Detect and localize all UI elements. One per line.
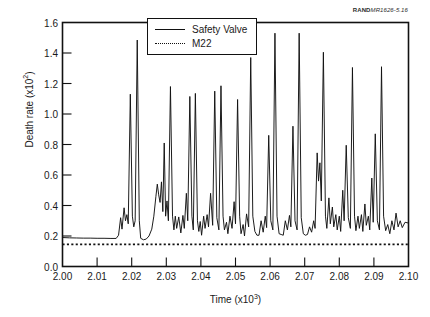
- legend-entry: M22: [155, 36, 247, 50]
- tick-marks: [63, 53, 374, 267]
- legend-line-swatch: [155, 38, 185, 48]
- data-series-layer: [63, 33, 409, 244]
- legend-label: M22: [192, 38, 211, 49]
- chart-legend: Safety ValveM22: [147, 18, 257, 55]
- legend-entry: Safety Valve: [155, 22, 247, 36]
- axes-frame: [63, 23, 409, 267]
- series-line: [63, 33, 409, 240]
- chart-figure: RANDMR1626-5.16 Death rate (x102) Time (…: [0, 0, 430, 317]
- legend-label: Safety Valve: [192, 24, 247, 35]
- legend-line-swatch: [155, 24, 185, 34]
